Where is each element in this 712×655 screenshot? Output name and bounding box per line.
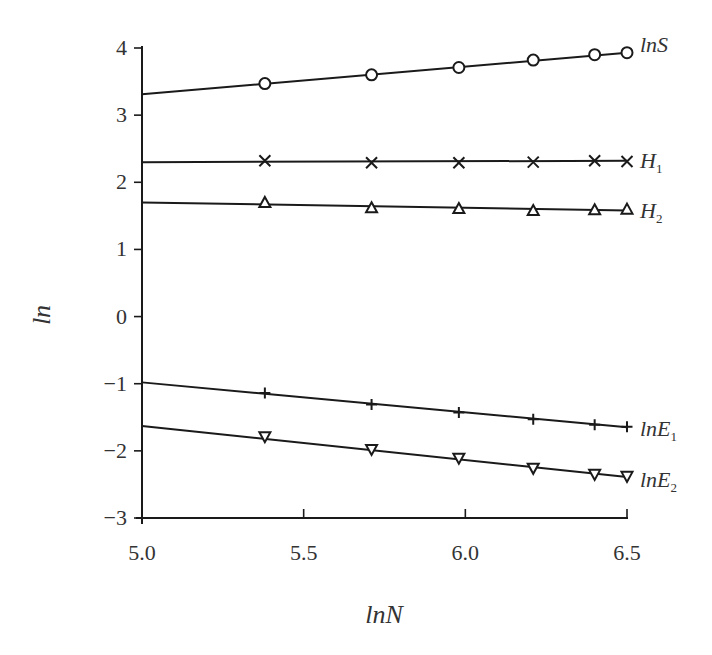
data-point-h2 <box>622 204 633 214</box>
data-point-lne2 <box>366 445 377 455</box>
fit-line-h2 <box>142 202 627 210</box>
data-point-h1 <box>528 157 539 168</box>
data-point-lne1 <box>528 414 539 425</box>
triangle-down-marker <box>622 472 633 482</box>
fit-line-lne2 <box>142 426 627 477</box>
circle-marker <box>589 49 600 60</box>
triangle-down-marker <box>528 464 539 474</box>
triangle-down-marker <box>589 470 600 480</box>
data-point-h1 <box>366 157 377 168</box>
y-tick-label: 2 <box>116 169 127 194</box>
data-point-lns <box>528 55 539 66</box>
series-label-lne1: lnE1 <box>640 416 677 444</box>
circle-marker <box>259 78 270 89</box>
x-marker <box>453 157 464 168</box>
x-tick-label: 5.5 <box>290 540 318 565</box>
triangle-down-marker <box>366 445 377 455</box>
data-point-lne1 <box>589 419 600 430</box>
data-point-lne2 <box>622 472 633 482</box>
y-tick-label: −1 <box>104 371 127 396</box>
series-label-h2: H2 <box>639 198 662 226</box>
data-point-h2 <box>453 203 464 213</box>
x-tick-label: 6.5 <box>613 540 641 565</box>
plus-marker <box>528 414 539 425</box>
data-point-lne2 <box>453 454 464 464</box>
data-point-lns <box>589 49 600 60</box>
data-markers <box>259 47 632 482</box>
plus-marker <box>622 421 633 432</box>
triangle-down-marker <box>453 454 464 464</box>
triangle-up-marker <box>528 205 539 215</box>
x-marker <box>528 157 539 168</box>
series-label-lns: lnS <box>640 32 668 57</box>
axes: 43210−1−2−35.05.56.06.5 <box>104 35 641 565</box>
triangle-up-marker <box>366 202 377 212</box>
y-tick-label: 3 <box>116 102 127 127</box>
circle-marker <box>366 69 377 80</box>
series-labels: lnSH1H2lnE1lnE2 <box>639 32 677 495</box>
data-point-lne2 <box>589 470 600 480</box>
triangle-up-marker <box>622 204 633 214</box>
x-tick-label: 6.0 <box>452 540 480 565</box>
triangle-down-marker <box>259 432 270 442</box>
circle-marker <box>528 55 539 66</box>
data-point-h2 <box>589 204 600 214</box>
data-point-lns <box>259 78 270 89</box>
series-label-h1: H1 <box>639 148 662 176</box>
data-point-h2 <box>528 205 539 215</box>
triangle-up-marker <box>453 203 464 213</box>
data-point-lns <box>366 69 377 80</box>
series-label-lne2: lnE2 <box>640 467 677 495</box>
data-point-h1 <box>453 157 464 168</box>
circle-marker <box>622 47 633 58</box>
data-point-lne1 <box>622 421 633 432</box>
fit-line-h1 <box>142 161 627 162</box>
x-axis-title: lnN <box>365 600 404 629</box>
y-tick-label: 1 <box>116 236 127 261</box>
data-point-lns <box>453 62 464 73</box>
circle-marker <box>453 62 464 73</box>
y-tick-label: −2 <box>104 438 127 463</box>
data-point-lne1 <box>453 407 464 418</box>
plus-marker <box>259 388 270 399</box>
chart: 43210−1−2−35.05.56.06.5 lnSH1H2lnE1lnE2 … <box>0 0 712 655</box>
plus-marker <box>453 407 464 418</box>
x-tick-label: 5.0 <box>128 540 156 565</box>
x-marker <box>366 157 377 168</box>
triangle-up-marker <box>259 197 270 207</box>
data-point-lne2 <box>528 464 539 474</box>
plus-marker <box>589 419 600 430</box>
y-tick-label: 4 <box>116 35 127 60</box>
data-point-lne2 <box>259 432 270 442</box>
fit-line-lne1 <box>142 382 627 427</box>
data-point-lns <box>622 47 633 58</box>
data-point-lne1 <box>366 399 377 410</box>
y-tick-label: −3 <box>104 505 127 530</box>
triangle-up-marker <box>589 204 600 214</box>
data-point-lne1 <box>259 388 270 399</box>
y-axis-title: ln <box>27 305 56 325</box>
data-point-h2 <box>259 197 270 207</box>
fit-line-lns <box>142 53 627 95</box>
plus-marker <box>366 399 377 410</box>
data-point-h2 <box>366 202 377 212</box>
y-tick-label: 0 <box>116 304 127 329</box>
fit-lines <box>142 53 627 477</box>
